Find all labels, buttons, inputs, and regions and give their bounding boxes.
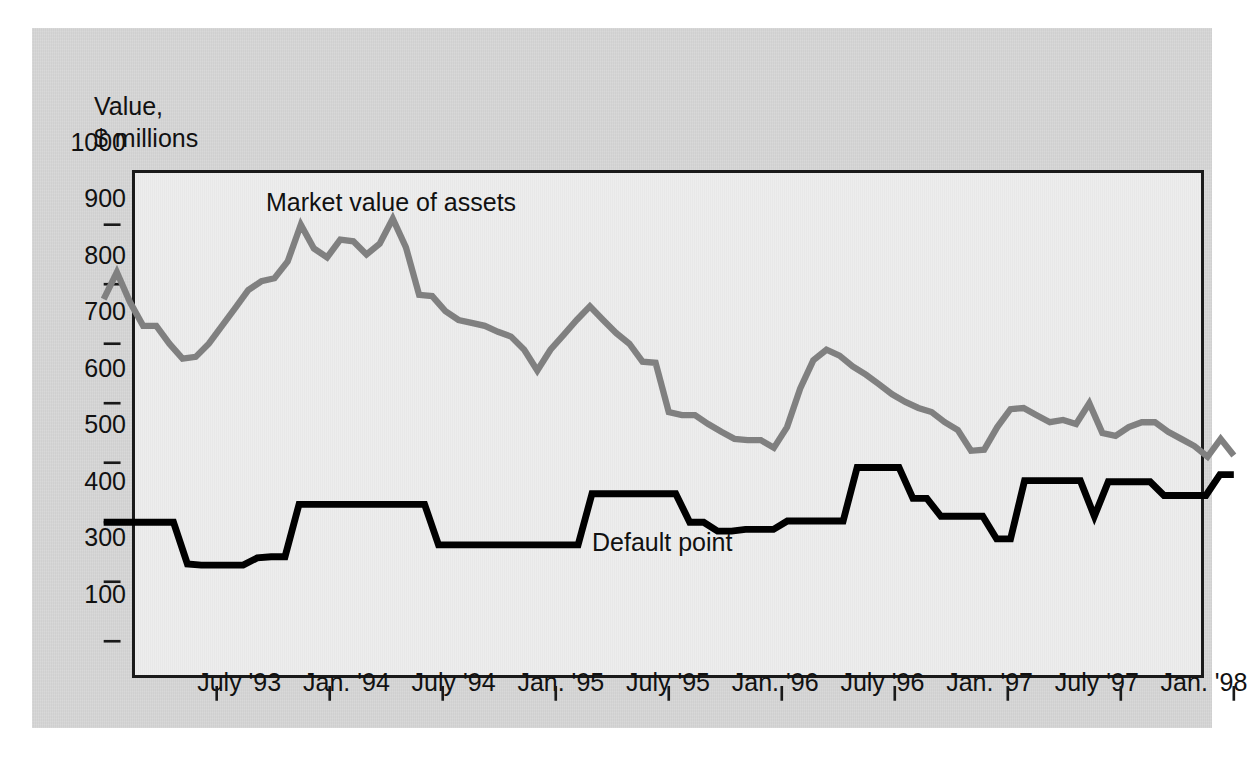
x-tick-label: July '93 (197, 668, 281, 697)
plot-area (132, 170, 1204, 678)
y-tick-label: 800 (48, 240, 126, 269)
x-tick-label: Jan. '97 (946, 668, 1033, 697)
y-tick-label: 1000 (48, 128, 126, 157)
y-tick-label: 300 (48, 523, 126, 552)
x-tick-label: July '97 (1055, 668, 1139, 697)
x-tick-label: Jan. '94 (303, 668, 390, 697)
y-tick-label: 100 (48, 579, 126, 608)
x-tick-label: July '96 (840, 668, 924, 697)
scanned-figure-panel: Value, $ millions 1000900800700600500400… (32, 28, 1212, 728)
y-tick-label: 900 (48, 184, 126, 213)
y-tick-label: 600 (48, 353, 126, 382)
y-tick-label: 500 (48, 410, 126, 439)
y-tick-label: 700 (48, 297, 126, 326)
x-tick-label: Jan. '98 (1161, 668, 1248, 697)
x-tick-label: Jan. '96 (732, 668, 819, 697)
x-tick-label: Jan. '95 (517, 668, 604, 697)
series-label-market-value: Market value of assets (266, 188, 516, 217)
y-tick-label: 400 (48, 466, 126, 495)
x-tick-label: July '94 (412, 668, 496, 697)
x-tick-label: July '95 (626, 668, 710, 697)
series-label-default-point: Default point (592, 528, 732, 557)
